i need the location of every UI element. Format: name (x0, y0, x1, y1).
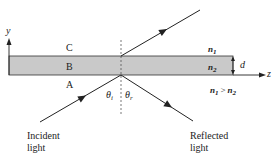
thickness-label: d (240, 60, 245, 70)
z-axis-arrow-icon (259, 73, 266, 78)
y-axis-arrow-icon (7, 38, 12, 45)
relation-operator: > (221, 85, 226, 95)
region-b-label: B (66, 62, 73, 72)
theta-r-sub: r (130, 94, 133, 102)
reflected-light-label-line1: Reflected (190, 131, 228, 141)
incident-angle-label: θi (106, 90, 113, 103)
reflected-light-label-line2: light (190, 143, 208, 153)
incident-arrow-icon (77, 92, 87, 102)
reflected-angle-label: θr (125, 90, 133, 103)
relation-left-sub: 1 (215, 89, 219, 97)
z-axis-label: z (267, 69, 271, 79)
n2-subscript: 2 (213, 66, 217, 74)
region-c-label: C (66, 43, 73, 53)
incident-light-label-line1: Incident (27, 131, 60, 141)
transmitted-arrow-icon (158, 26, 168, 36)
y-axis-label: y (6, 26, 10, 36)
reflected-arrow-icon (163, 100, 174, 110)
relation-right-sub: 2 (233, 89, 237, 97)
theta-i-sub: i (111, 94, 113, 102)
n2-label: n2 (208, 62, 217, 75)
index-relation: n1>n2 (210, 85, 236, 98)
incident-light-label-line2: light (27, 143, 45, 153)
n1-label: n1 (208, 44, 217, 57)
region-a-label: A (66, 80, 73, 90)
n1-subscript: 1 (213, 48, 217, 56)
